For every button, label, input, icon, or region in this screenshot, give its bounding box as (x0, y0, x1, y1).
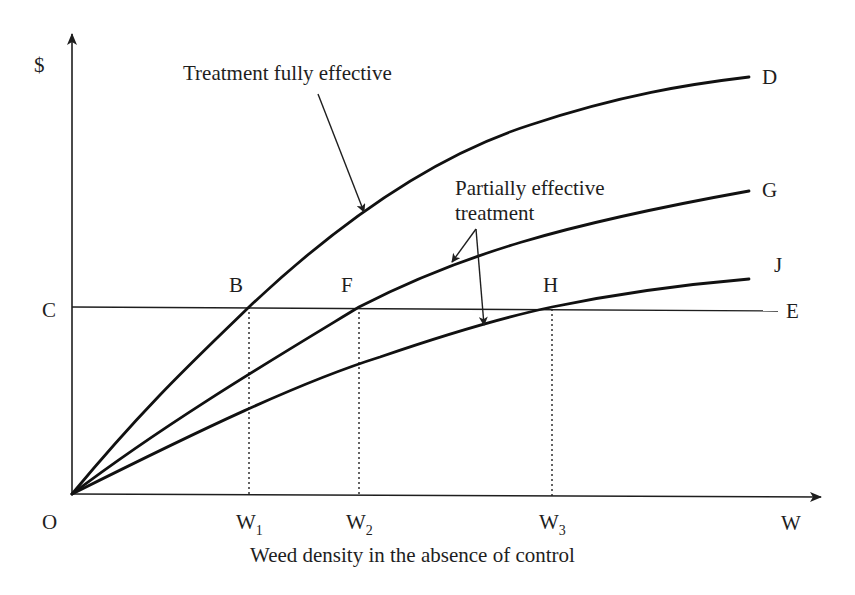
curve-partially-effective-g (72, 191, 749, 494)
x-axis-label: W (781, 511, 801, 535)
curve-partially-effective-j (72, 279, 749, 494)
tick-label-w3: W3 (539, 510, 566, 538)
arrow-partial-to-j (476, 229, 484, 325)
annotation-fully-effective: Treatment fully effective (183, 61, 392, 85)
point-label-h: H (543, 273, 558, 297)
x-axis (72, 494, 821, 497)
arrow-fully-effective (318, 94, 364, 212)
weed-control-diagram: $ W O Weed density in the absence of con… (0, 0, 855, 595)
x-axis-title: Weed density in the absence of control (250, 543, 575, 567)
origin-label: O (42, 510, 57, 534)
curve-end-label-j: J (774, 253, 782, 277)
tick-label-w1: W1 (236, 510, 263, 538)
point-label-f: F (341, 273, 353, 297)
annotation-partial-line1: Partially effective (455, 176, 604, 200)
curve-end-label-d: D (762, 65, 777, 89)
point-label-b: B (229, 273, 243, 297)
cost-label-e: E (786, 299, 799, 323)
curve-fully-effective-d (72, 77, 749, 494)
cost-line-c-e (72, 307, 778, 311)
annotation-partial-line2: treatment (455, 201, 534, 225)
tick-label-w2: W2 (346, 510, 373, 538)
cost-label-c: C (42, 298, 56, 322)
curve-end-label-g: G (762, 178, 777, 202)
y-axis-label: $ (34, 53, 45, 77)
